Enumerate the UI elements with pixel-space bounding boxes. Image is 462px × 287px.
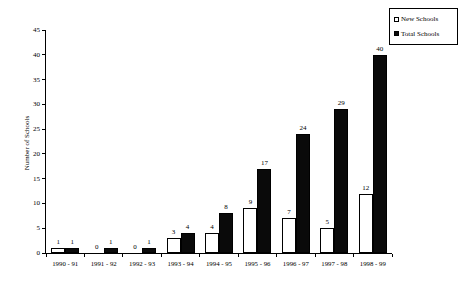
x-axis-label: 1992 - 93	[129, 260, 155, 268]
bar-value-label: 9	[249, 198, 253, 206]
bar-value-label: 17	[261, 159, 268, 167]
chart-page: New Schools Total Schools Number of Scho…	[0, 0, 462, 287]
y-axis-tick-label: 25	[14, 125, 40, 133]
x-axis-tick	[276, 254, 277, 257]
bar-value-label: 3	[172, 228, 176, 236]
legend-label-new-schools: New Schools	[401, 15, 438, 23]
y-axis-tick-label: 5	[14, 224, 40, 232]
y-axis-tick-label: 30	[14, 100, 40, 108]
bar-value-label: 0	[133, 243, 137, 251]
bar-total-schools	[373, 55, 387, 253]
x-axis-tick	[315, 254, 316, 257]
bar-new-schools	[205, 233, 219, 253]
x-axis-tick	[199, 254, 200, 257]
bar-value-label: 1	[56, 238, 60, 246]
legend-item-new-schools: New Schools	[394, 15, 457, 23]
x-axis-label: 1990 - 91	[52, 260, 78, 268]
bar-value-label: 1	[147, 238, 151, 246]
bar-new-schools	[282, 218, 296, 253]
bar-new-schools	[167, 238, 181, 253]
plot-area: 0510152025303540451990 - 91111991 - 9201…	[45, 30, 392, 254]
bar-new-schools	[359, 194, 373, 253]
bar-total-schools	[219, 213, 233, 253]
y-axis-tick-label: 40	[14, 51, 40, 59]
y-axis-tick	[42, 228, 46, 229]
y-axis-tick	[42, 79, 46, 80]
x-axis-tick	[392, 254, 393, 257]
y-axis-tick	[42, 203, 46, 204]
y-axis-tick	[42, 104, 46, 105]
y-axis-tick	[42, 129, 46, 130]
y-axis-tick	[42, 54, 46, 55]
bar-total-schools	[104, 248, 118, 253]
bar-total-schools	[181, 233, 195, 253]
bar-new-schools	[243, 208, 257, 253]
y-axis-tick-label: 15	[14, 175, 40, 183]
x-axis-label: 1993 - 94	[168, 260, 194, 268]
bar-value-label: 24	[299, 124, 306, 132]
x-axis-label: 1991 - 92	[91, 260, 117, 268]
bar-new-schools	[51, 248, 65, 253]
x-axis-tick	[238, 254, 239, 257]
x-axis-label: 1995 - 96	[244, 260, 270, 268]
bar-value-label: 40	[376, 45, 383, 53]
y-axis-tick-label: 45	[14, 26, 40, 34]
bar-value-label: 0	[95, 243, 99, 251]
bar-value-label: 8	[224, 203, 228, 211]
y-axis-tick-label: 0	[14, 249, 40, 257]
bar-value-label: 5	[326, 218, 330, 226]
y-axis-tick	[42, 153, 46, 154]
x-axis-label: 1996 - 97	[283, 260, 309, 268]
legend-label-total-schools: Total Schools	[401, 30, 439, 38]
bar-value-label: 1	[109, 238, 113, 246]
legend: New Schools Total Schools	[389, 8, 458, 45]
y-axis-tick	[42, 178, 46, 179]
bar-total-schools	[142, 248, 156, 253]
bar-value-label: 1	[70, 238, 74, 246]
bar-total-schools	[65, 248, 79, 253]
x-axis-tick	[161, 254, 162, 257]
x-axis-tick	[46, 254, 47, 257]
bar-total-schools	[257, 169, 271, 253]
bar-value-label: 29	[338, 99, 345, 107]
x-axis-label: 1994 - 95	[206, 260, 232, 268]
legend-item-total-schools: Total Schools	[394, 30, 457, 38]
bar-value-label: 4	[210, 223, 214, 231]
legend-swatch-new-schools-icon	[394, 17, 399, 22]
bar-total-schools	[334, 109, 348, 253]
y-axis-tick-label: 10	[14, 199, 40, 207]
y-axis-tick-label: 20	[14, 150, 40, 158]
bar-value-label: 4	[186, 223, 190, 231]
legend-swatch-total-schools-icon	[394, 31, 399, 36]
y-axis-tick	[42, 30, 46, 31]
bar-total-schools	[296, 134, 310, 253]
y-axis-title: Number of Schools	[23, 116, 31, 170]
x-axis-tick	[84, 254, 85, 257]
bar-value-label: 12	[362, 184, 369, 192]
x-axis-tick	[122, 254, 123, 257]
x-axis-tick	[353, 254, 354, 257]
y-axis-tick-label: 35	[14, 76, 40, 84]
x-axis-label: 1998 - 99	[360, 260, 386, 268]
bar-value-label: 7	[287, 208, 291, 216]
x-axis-label: 1997 - 98	[321, 260, 347, 268]
bar-new-schools	[320, 228, 334, 253]
